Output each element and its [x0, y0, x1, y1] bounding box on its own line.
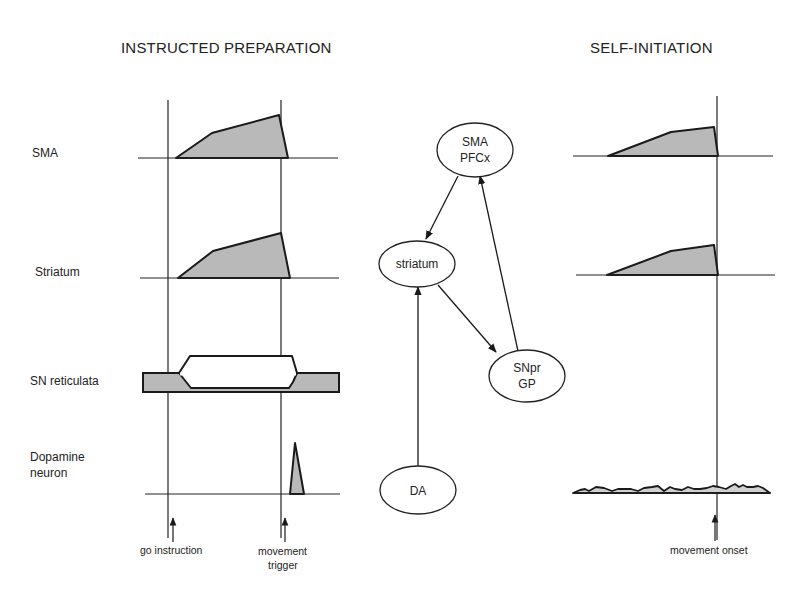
node-da: DA — [380, 466, 456, 514]
figure-canvas: INSTRUCTED PREPARATION SMA Striatum SN r… — [0, 0, 803, 592]
svg-text:SNpr: SNpr — [513, 361, 540, 375]
event-label-movement-onset: movement onset — [670, 544, 748, 556]
svg-text:SMA: SMA — [462, 135, 488, 149]
sn-reticulata-trace — [143, 356, 339, 392]
row-label-dopamine: Dopamine — [30, 450, 85, 464]
dopamine-trace-instructed — [145, 443, 340, 494]
row-label-striatum: Striatum — [35, 265, 80, 279]
row-label-sma: SMA — [32, 146, 58, 160]
striatum-trace-instructed — [140, 233, 339, 278]
node-sma-pfcx: SMA PFCx — [437, 123, 513, 177]
instructed-preparation-panel: INSTRUCTED PREPARATION SMA Striatum SN r… — [30, 39, 340, 571]
event-label-trigger: trigger — [268, 559, 298, 571]
row-label-sn-reticulata: SN reticulata — [30, 374, 99, 388]
svg-text:GP: GP — [518, 377, 535, 391]
panel-title-self-initiation: SELF-INITIATION — [590, 39, 713, 56]
row-label-neuron: neuron — [30, 466, 67, 480]
svg-text:DA: DA — [410, 484, 427, 498]
sma-trace-self — [573, 127, 773, 156]
svg-text:PFCx: PFCx — [460, 151, 490, 165]
event-label-go-instruction: go instruction — [140, 544, 203, 556]
basal-ganglia-network: SMA PFCx striatum SNpr GP DA — [379, 123, 565, 514]
svg-text:striatum: striatum — [396, 257, 439, 271]
node-striatum: striatum — [379, 241, 455, 287]
self-initiation-panel: SELF-INITIATION movement onset — [573, 39, 775, 556]
striatum-trace-self — [576, 245, 775, 275]
edge-striatum-to-snpr — [438, 285, 496, 352]
edge-sma-to-striatum — [426, 176, 458, 239]
panel-title-instructed-preparation: INSTRUCTED PREPARATION — [121, 39, 332, 56]
node-snpr-gp: SNpr GP — [489, 350, 565, 402]
event-label-movement: movement — [258, 545, 307, 557]
dopamine-trace-self — [573, 484, 771, 493]
edge-snpr-to-sma — [480, 176, 518, 351]
